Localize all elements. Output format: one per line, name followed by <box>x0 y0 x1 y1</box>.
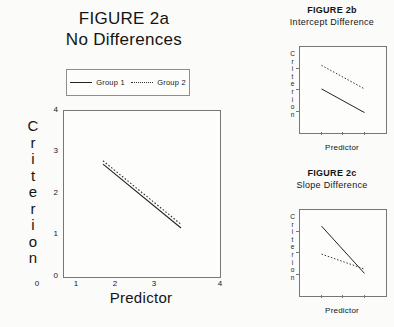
legend-entry-group-1: Group 1 <box>70 78 125 87</box>
figure-2b-title-line1: FIGURE 2b <box>272 4 392 16</box>
x-tick-label: 1 <box>69 279 83 288</box>
solid-line-swatch-icon <box>70 82 92 83</box>
x-tick-label: 4 <box>213 279 227 288</box>
x-tick-mark <box>364 132 365 135</box>
figure-2a-title-line2: No Differences <box>0 29 248 50</box>
y-label-char: n <box>288 111 297 119</box>
y-label-char: n <box>24 250 42 267</box>
y-label-char: i <box>288 259 297 267</box>
series-line-group-1 <box>322 89 365 113</box>
y-label-char: n <box>288 274 297 282</box>
series-line-group-1 <box>322 226 365 273</box>
figure-2c-title-line1: FIGURE 2c <box>272 167 392 179</box>
figure-2a-x-axis-label: Predictor <box>63 289 219 306</box>
figure-2b-y-axis-label: C r i t e r i o n <box>288 50 297 118</box>
y-tick-label: 0 <box>44 271 58 280</box>
x-tick-mark <box>342 132 343 135</box>
figure-2a-y-axis-label: C r i t e r i o n <box>24 118 42 267</box>
figure-2b-title-line2: Intercept Difference <box>272 16 392 28</box>
figure-2a-panel: FIGURE 2a No Differences Group 1 Group 2… <box>0 0 248 327</box>
figure-2c-title: FIGURE 2c Slope Difference <box>272 167 392 191</box>
y-label-char: C <box>24 118 42 135</box>
y-label-char: r <box>288 58 297 66</box>
series-line-group-1 <box>103 164 181 228</box>
figure-2a-series-lines <box>64 111 220 277</box>
x-tick-label: 3 <box>147 279 161 288</box>
y-tick-label: 2 <box>44 188 58 197</box>
y-label-char: i <box>24 217 42 234</box>
y-label-char: i <box>24 151 42 168</box>
figure-sheet: FIGURE 2a No Differences Group 1 Group 2… <box>0 0 394 327</box>
x-tick-mark <box>321 295 322 298</box>
y-label-char: r <box>288 221 297 229</box>
figure-2c-x-axis-label: Predictor <box>299 306 385 315</box>
figure-2c-series-lines <box>300 210 386 296</box>
y-label-char: i <box>288 96 297 104</box>
figure-2b-series-lines <box>300 47 386 133</box>
legend-label-group-2: Group 2 <box>157 78 186 87</box>
y-label-char: r <box>24 201 42 218</box>
figure-2b-title: FIGURE 2b Intercept Difference <box>272 4 392 28</box>
y-tick-label: 3 <box>44 146 58 155</box>
x-tick-label: 0 <box>30 279 44 288</box>
dotted-line-swatch-icon <box>131 82 153 83</box>
y-label-char: r <box>24 135 42 152</box>
legend-entry-group-2: Group 2 <box>131 78 186 87</box>
y-label-char: C <box>288 50 297 58</box>
series-line-group-2 <box>103 161 181 225</box>
figure-2b-panel: FIGURE 2b Intercept Difference C r i t e… <box>272 4 392 164</box>
x-tick-mark <box>364 295 365 298</box>
figure-2a-plot-area <box>63 110 221 278</box>
figure-2a-title: FIGURE 2a No Differences <box>0 8 248 50</box>
figure-2c-panel: FIGURE 2c Slope Difference C r i t e r i… <box>272 167 392 327</box>
y-label-char: C <box>288 213 297 221</box>
y-label-char: e <box>24 184 42 201</box>
x-tick-mark <box>321 132 322 135</box>
figure-2b-x-axis-label: Predictor <box>299 143 385 152</box>
y-label-char: i <box>288 228 297 236</box>
y-label-char: t <box>288 236 297 244</box>
figure-2c-y-axis-label: C r i t e r i o n <box>288 213 297 281</box>
y-label-char: t <box>288 73 297 81</box>
figure-2c-plot-area <box>299 209 387 297</box>
y-label-char: e <box>288 243 297 251</box>
x-tick-mark <box>342 295 343 298</box>
y-tick-label: 4 <box>44 105 58 114</box>
y-label-char: e <box>288 80 297 88</box>
series-line-group-2 <box>322 65 365 89</box>
figure-2a-legend: Group 1 Group 2 <box>66 69 190 96</box>
x-tick-label: 2 <box>108 279 122 288</box>
y-tick-label: 1 <box>44 229 58 238</box>
figure-2a-title-line1: FIGURE 2a <box>0 8 248 29</box>
y-label-char: t <box>24 168 42 185</box>
y-label-char: i <box>288 65 297 73</box>
figure-2c-title-line2: Slope Difference <box>272 179 392 191</box>
y-label-char: o <box>24 234 42 251</box>
figure-2b-plot-area <box>299 46 387 134</box>
legend-label-group-1: Group 1 <box>96 78 125 87</box>
